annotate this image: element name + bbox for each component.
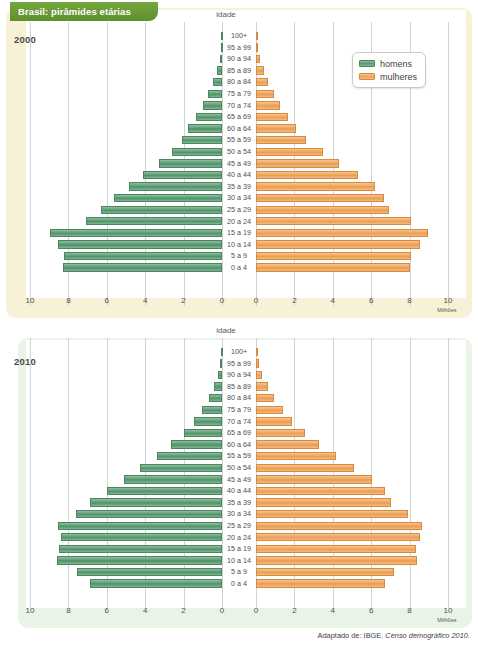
source-prefix: Adaptado de: IBGE.: [318, 631, 386, 640]
bar-men: [63, 263, 222, 271]
bar-men: [59, 545, 222, 553]
bar-women: [256, 263, 410, 271]
bar-women: [256, 148, 323, 156]
x-tick-label: 4: [323, 606, 343, 615]
bar-women: [256, 124, 296, 132]
pyramid-row: 65 a 69: [0, 427, 478, 439]
pyramid-row: 100+: [0, 346, 478, 358]
bar-women: [256, 101, 280, 109]
bar-men: [196, 113, 222, 121]
bar-women: [256, 464, 354, 472]
pyramid-row: 95 a 99: [0, 358, 478, 370]
pyramid-row: 45 a 49: [0, 474, 478, 486]
x-tick-label: 8: [400, 296, 420, 305]
pyramid-row: 20 a 24: [0, 216, 478, 228]
age-group-label: 100+: [222, 346, 256, 358]
pyramid-row: 90 a 94: [0, 369, 478, 381]
x-tick-label: 2: [284, 606, 304, 615]
bar-men: [114, 194, 222, 202]
age-group-label: 50 a 54: [222, 146, 256, 158]
pyramid-row: 45 a 49: [0, 158, 478, 170]
bar-men: [208, 90, 222, 98]
age-group-label: 30 a 34: [222, 508, 256, 520]
x-tick-label: 2: [174, 606, 194, 615]
age-group-label: 95 a 99: [222, 358, 256, 370]
age-group-label: 80 a 84: [222, 76, 256, 88]
bar-women: [256, 545, 416, 553]
age-group-label: 5 a 9: [222, 250, 256, 262]
age-group-label: 35 a 39: [222, 181, 256, 193]
x-tick-label: 10: [438, 606, 458, 615]
age-group-label: 65 a 69: [222, 111, 256, 123]
bar-women: [256, 90, 274, 98]
pyramid-row: 5 a 9: [0, 250, 478, 262]
bars-group-2010: 100+95 a 9990 a 9485 a 8980 a 8475 a 797…: [0, 346, 478, 589]
bar-women: [256, 429, 305, 437]
legend-2000: homens mulheres: [352, 52, 426, 88]
x-tick-label: 10: [20, 606, 40, 615]
pyramid-row: 25 a 29: [0, 204, 478, 216]
bar-women: [256, 136, 306, 144]
bar-women: [256, 533, 420, 541]
legend-item-mulheres[interactable]: mulheres: [359, 70, 417, 83]
bar-women: [256, 55, 260, 63]
age-group-label: 75 a 79: [222, 88, 256, 100]
bar-men: [57, 556, 222, 564]
bar-women: [256, 475, 372, 483]
x-tick-label: 8: [58, 296, 78, 305]
bar-women: [256, 359, 259, 367]
bar-men: [194, 417, 222, 425]
bar-women: [256, 556, 417, 564]
bar-women: [256, 510, 408, 518]
pyramid-row: 50 a 54: [0, 462, 478, 474]
pyramid-row: 15 a 19: [0, 227, 478, 239]
page-title: Brasil: pirâmides etárias: [18, 6, 131, 17]
legend-item-homens[interactable]: homens: [359, 57, 417, 70]
pyramid-row: 5 a 9: [0, 566, 478, 578]
pyramid-row: 85 a 89: [0, 381, 478, 393]
age-group-label: 95 a 99: [222, 42, 256, 54]
bar-women: [256, 522, 422, 530]
chart-2010: 2010 idade 100+95 a 9990 a 9485 a 8980 a…: [0, 330, 478, 630]
pyramid-row: 80 a 84: [0, 392, 478, 404]
bar-men: [171, 440, 222, 448]
bar-women: [256, 113, 288, 121]
age-group-label: 60 a 64: [222, 439, 256, 451]
pyramid-row: 25 a 29: [0, 520, 478, 532]
bar-women: [256, 171, 358, 179]
age-group-label: 40 a 44: [222, 169, 256, 181]
age-group-label: 70 a 74: [222, 416, 256, 428]
bar-men: [77, 568, 222, 576]
legend-swatch-women-icon: [359, 73, 375, 80]
pyramid-row: 60 a 64: [0, 123, 478, 135]
pyramid-row: 65 a 69: [0, 111, 478, 123]
age-group-label: 85 a 89: [222, 65, 256, 77]
pyramid-row: 75 a 79: [0, 88, 478, 100]
bar-men: [172, 148, 222, 156]
bar-women: [256, 159, 339, 167]
legend-label-women: mulheres: [380, 72, 417, 82]
age-group-label: 15 a 19: [222, 227, 256, 239]
bar-men: [90, 498, 222, 506]
bar-women: [256, 229, 428, 237]
source-title: Censo demográfico 2010.: [385, 631, 470, 640]
age-group-label: 55 a 59: [222, 134, 256, 146]
x-tick-label: 4: [135, 296, 155, 305]
bar-men: [124, 475, 222, 483]
age-group-label: 100+: [222, 30, 256, 42]
bar-men: [90, 579, 222, 587]
bar-women: [256, 217, 411, 225]
x-tick-label: 0: [246, 606, 266, 615]
bar-women: [256, 406, 283, 414]
bar-men: [129, 182, 222, 190]
bar-women: [256, 394, 274, 402]
age-group-label: 10 a 14: [222, 239, 256, 251]
pyramid-row: 10 a 14: [0, 555, 478, 567]
bar-men: [203, 101, 222, 109]
x-tick-label: 6: [361, 296, 381, 305]
pyramid-row: 100+: [0, 30, 478, 42]
age-group-label: 55 a 59: [222, 450, 256, 462]
bar-men: [76, 510, 222, 518]
bar-women: [256, 579, 385, 587]
age-group-label: 20 a 24: [222, 532, 256, 544]
